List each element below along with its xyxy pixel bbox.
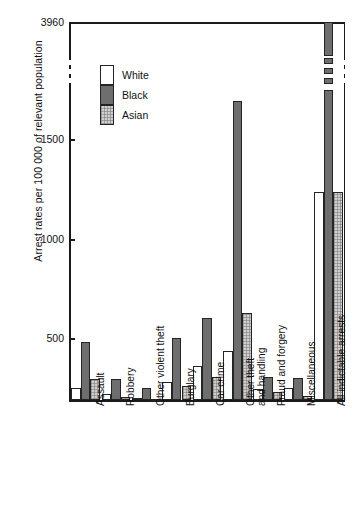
y-tick-1500 xyxy=(69,139,75,141)
category-label-assault: Assault xyxy=(95,373,107,406)
y-tick-label-500: 500 xyxy=(28,332,64,344)
y-tick-1000 xyxy=(69,239,75,241)
category-label-miscellaneous: Miscellaneous xyxy=(306,341,318,406)
bar-black-all-indictable-arrests-lower xyxy=(324,90,334,400)
bar-black-other-violent-theft xyxy=(142,388,152,400)
category-label-all-indictable: All indictable arrests xyxy=(336,315,348,406)
y-axis-line-upper xyxy=(69,22,71,56)
category-label-other-violent-theft: Other violent theft xyxy=(155,326,167,406)
bar-black-assault xyxy=(81,342,91,400)
y-tick-label-1000: 1000 xyxy=(28,233,64,245)
bar-black-robbery xyxy=(111,379,121,400)
y-tick-500 xyxy=(69,338,75,340)
legend-swatch-asian xyxy=(100,105,114,125)
y-tick-3960 xyxy=(69,22,75,24)
category-label-fraud-and-forgery: Fraud and forgery xyxy=(276,325,288,406)
category-label-other-theft-line2: and handling xyxy=(256,348,268,406)
bar-black-all-indictable-arrests-top xyxy=(324,22,334,56)
bar-black-all-indictable-arrests-break-1 xyxy=(324,58,334,64)
legend-label-black: Black xyxy=(122,89,148,101)
y-tick-label-1500: 1500 xyxy=(28,133,64,145)
plot-right-rule-break xyxy=(344,56,345,86)
y-tick-label-3960: 3960 xyxy=(28,16,64,28)
bar-black-car-crime xyxy=(202,318,212,400)
legend-label-white: White xyxy=(122,69,149,81)
y-axis-line-main xyxy=(69,86,71,401)
plot-right-rule-upper xyxy=(344,22,345,56)
category-label-other-theft-line1: Other theft xyxy=(245,358,257,406)
bar-black-all-indictable-arrests-break-2 xyxy=(324,68,334,74)
bar-black-miscellaneous xyxy=(293,378,303,400)
bar-black-burglary xyxy=(172,338,182,400)
bar-black-all-indictable-arrests-break-3 xyxy=(324,78,334,84)
category-label-burglary: Burglary xyxy=(185,368,197,406)
plot-top-rule xyxy=(69,22,345,24)
x-axis-baseline xyxy=(69,400,345,402)
category-label-robbery: Robbery xyxy=(125,367,137,406)
legend-swatch-black xyxy=(100,85,114,105)
legend-swatch-white xyxy=(100,65,114,85)
y-axis-break-dashes xyxy=(69,56,71,86)
bar-black-other-theft-and-handling xyxy=(233,101,243,400)
arrest-rates-bar-chart: Arrest rates per 100 000 of relevant pop… xyxy=(0,0,360,518)
legend-label-asian: Asian xyxy=(122,109,148,121)
bar-white-assault xyxy=(71,388,81,400)
category-label-car-crime: Car crime xyxy=(215,362,227,406)
